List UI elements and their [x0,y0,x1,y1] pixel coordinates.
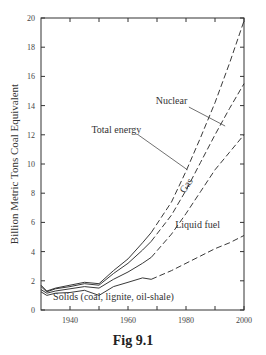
label-total: Total energy [91,124,141,135]
y-tick-label: 20 [27,14,35,23]
y-tick-label: 10 [27,160,35,169]
y-axis-label: Billion Metric Tons Coal Equivalent [8,84,20,244]
figure-caption: Fig 9.1 [0,333,266,349]
label-liquid: Liquid fuel [175,219,220,230]
x-tick-label: 1940 [62,316,78,325]
y-tick-label: 18 [27,43,35,52]
series-labels: NuclearTotal energyGasLiquid fuelSolids … [53,95,220,303]
y-tick-label: 12 [27,131,35,140]
y-tick-label: 8 [31,189,35,198]
axis-ticks [41,18,244,310]
total-energy-leader-line [138,135,187,170]
series-projection-total-energy [151,84,244,242]
y-tick-label: 16 [27,72,35,81]
data-series [41,21,244,296]
nuclear-leader-line [189,107,225,126]
series-historical-total-energy [41,241,151,291]
chart-axes [41,18,244,310]
plot-frame [41,18,244,310]
energy-chart: 024681012141618201940196019802000 Nuclea… [0,0,266,355]
series-projection-nuclear [151,21,244,233]
x-tick-label: 2000 [236,316,252,325]
y-tick-label: 2 [31,277,35,286]
label-leader-lines [138,107,225,170]
y-tick-label: 6 [31,218,35,227]
x-tick-label: 1980 [178,316,194,325]
series-projection-gas [151,135,244,258]
series-historical-nuclear [41,233,151,291]
y-tick-label: 0 [31,306,35,315]
y-tick-label: 4 [31,248,35,257]
label-solids: Solids (coal, lignite, oil-shale) [53,291,174,303]
label-nuclear: Nuclear [156,95,188,106]
x-tick-label: 1960 [120,316,136,325]
y-tick-label: 14 [27,102,35,111]
